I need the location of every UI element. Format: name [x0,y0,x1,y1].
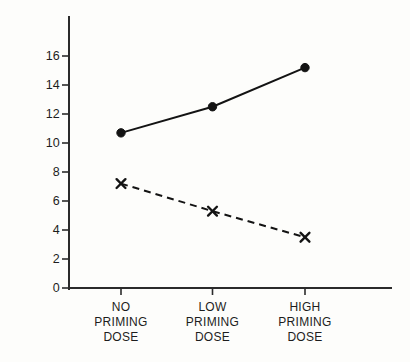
axis-group [69,17,391,289]
y-tick-label-2: 2 [20,253,60,266]
category-word: DOSE [250,330,360,345]
series-line-solid-line [121,68,305,133]
y-tick-label-6: 6 [20,195,60,208]
y-tick-label-12: 12 [20,108,60,121]
y-tick-label-4: 4 [20,224,60,237]
data-series-group [117,63,310,241]
y-tick-label-8: 8 [20,166,60,179]
data-point-dashed-line-2 [301,233,310,242]
y-tick-label-14: 14 [20,79,60,92]
y-tick-label-16: 16 [20,50,60,63]
category-word: PRIMING [250,315,360,330]
chart-figure: MINUTES 0246810121416 NOPRIMINGDOSELOWPR… [0,0,410,362]
y-tick-label-10: 10 [20,137,60,150]
y-tick-marks [62,56,69,288]
category-word: HIGH [250,300,360,315]
data-point-solid-line-0 [117,129,125,137]
y-tick-label-0: 0 [20,282,60,295]
data-point-solid-line-1 [208,103,216,111]
data-point-solid-line-2 [301,63,309,71]
x-category-label-2: HIGHPRIMINGDOSE [250,300,360,345]
x-tick-marks [121,288,305,295]
